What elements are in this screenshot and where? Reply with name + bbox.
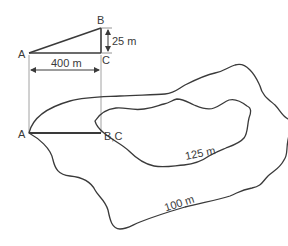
triangle-label-a: A	[18, 49, 25, 60]
diagram-svg	[0, 0, 288, 246]
height-label: 25 m	[112, 36, 136, 47]
map-label-a: A	[18, 129, 25, 140]
gradient-triangle	[29, 28, 101, 53]
height-dimension	[101, 28, 112, 53]
base-label: 400 m	[51, 58, 82, 69]
triangle-label-c: C	[102, 55, 110, 66]
map-label-bc: B,C	[104, 131, 122, 142]
triangle-label-b: B	[97, 15, 104, 26]
contour-100m	[29, 64, 288, 229]
contour-gradient-diagram: B C A 25 m 400 m A B,C 125 m 100 m	[0, 0, 288, 246]
